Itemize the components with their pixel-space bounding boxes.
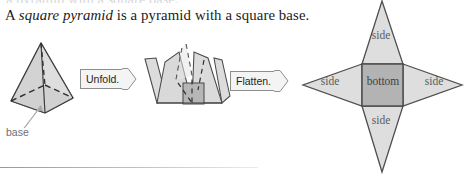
page-title-prefix: A [5, 7, 19, 23]
net-label-side-left: side [310, 75, 350, 87]
pyramid-net-figure [296, 0, 475, 178]
page-title-suffix: is a pyramid with a square base. [113, 7, 309, 23]
arrow-right-icon [122, 68, 137, 90]
page-title-term: square pyramid [19, 7, 113, 23]
net-label-bottom: bottom [360, 75, 406, 87]
flatten-button-label: Flatten. [230, 71, 275, 91]
base-label: base [6, 126, 29, 138]
flatten-button[interactable]: Flatten. [230, 70, 289, 92]
unfold-button-label: Unfold. [80, 69, 123, 89]
net-label-side-bottom: side [361, 114, 401, 126]
previous-line-bleed: a pyramid with a square base. [6, 0, 306, 3]
net-label-side-top: side [361, 29, 401, 41]
unfolded-base-quad [183, 83, 204, 104]
bottom-divider [0, 167, 258, 168]
net-label-side-right: side [414, 75, 454, 87]
unfold-button[interactable]: Unfold. [80, 68, 137, 90]
page-title: A square pyramid is a pyramid with a squ… [5, 5, 309, 25]
partially-unfolded-pyramid-figure [142, 30, 238, 122]
arrow-right-icon [274, 70, 289, 92]
